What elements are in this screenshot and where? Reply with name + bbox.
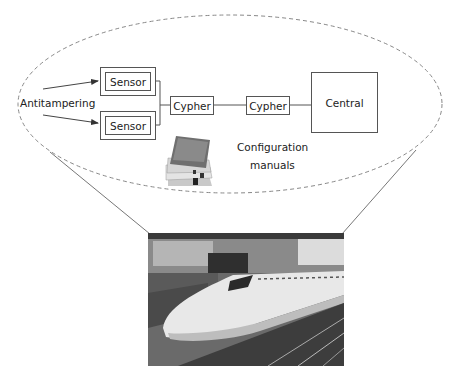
config-manuals-label-line2: manuals bbox=[250, 160, 295, 171]
train-photo bbox=[148, 233, 344, 366]
config-manuals-label-line1: Configuration bbox=[237, 142, 308, 153]
train-illustration bbox=[148, 233, 344, 366]
